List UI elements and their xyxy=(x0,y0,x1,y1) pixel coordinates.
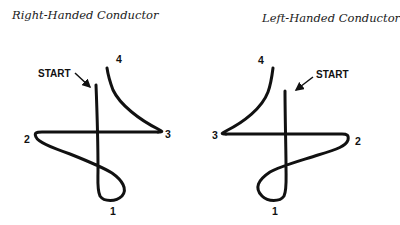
beat-label-2: 2 xyxy=(24,133,30,145)
start-label: START xyxy=(38,68,71,79)
start-arrow-icon xyxy=(296,77,313,90)
beat-curve-3-to-4 xyxy=(222,68,273,134)
beat-label-2: 2 xyxy=(355,135,361,147)
beat-path xyxy=(35,85,158,201)
beat-label-4: 4 xyxy=(116,53,122,65)
beat-curve-3-to-4 xyxy=(107,68,162,132)
beat-label-4: 4 xyxy=(258,54,264,66)
beat-path xyxy=(226,91,348,201)
left-handed-diagram: START 2 3 4 1 xyxy=(212,54,361,217)
beat-label-1: 1 xyxy=(110,205,116,217)
beat-label-3: 3 xyxy=(212,129,218,141)
beat-label-1: 1 xyxy=(272,205,278,217)
start-label: START xyxy=(316,69,349,80)
right-handed-diagram: START 2 3 4 1 xyxy=(24,53,171,217)
start-arrow-icon xyxy=(75,73,90,87)
beat-label-3: 3 xyxy=(165,128,171,140)
